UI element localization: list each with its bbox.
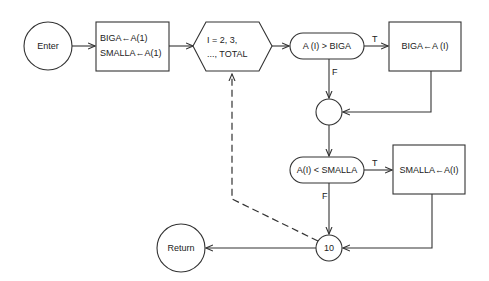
- set-small-label: SMALLA←A(I): [399, 165, 458, 175]
- connector-10-label: 10: [324, 243, 334, 253]
- loop-hexagon: I = 2, 3, ..., TOTAL: [193, 22, 272, 71]
- set-small-box: SMALLA←A(I): [393, 145, 465, 194]
- loop-line-1: I = 2, 3,: [207, 35, 237, 45]
- set-big-box: BIGA←A (I): [389, 22, 461, 71]
- join-connector: [316, 99, 342, 125]
- cond-small-true-label: T: [372, 158, 378, 168]
- return-label: Return: [167, 243, 194, 253]
- loop-line-2: ..., TOTAL: [207, 49, 248, 59]
- edge-set-small-10: [343, 194, 432, 248]
- cond-big-false-label: F: [332, 67, 338, 77]
- cond-small-decision: A(I) < SMALLA: [290, 157, 364, 183]
- connector-10: 10: [316, 235, 342, 261]
- init-box: BIGA←A(1) SMALLA←A(1): [96, 22, 169, 71]
- init-line-1: BIGA←A(1): [100, 33, 148, 43]
- return-node: Return: [157, 224, 205, 272]
- enter-label: Enter: [37, 41, 59, 51]
- cond-big-label: A (I) > BIGA: [303, 41, 351, 51]
- set-big-label: BIGA←A (I): [401, 41, 448, 51]
- cond-small-false-label: F: [322, 191, 328, 201]
- flowchart-canvas: Enter BIGA←A(1) SMALLA←A(1) I = 2, 3, ..…: [0, 0, 489, 281]
- init-line-2: SMALLA←A(1): [100, 48, 162, 58]
- cond-big-decision: A (I) > BIGA: [290, 33, 364, 59]
- edge-set-big-join: [343, 71, 431, 112]
- enter-node: Enter: [24, 22, 72, 70]
- cond-small-label: A(I) < SMALLA: [297, 165, 357, 175]
- cond-big-true-label: T: [372, 34, 378, 44]
